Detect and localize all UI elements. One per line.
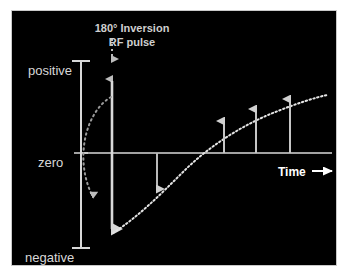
rf-pulse-caption: 180° Inversion RF pulse (72, 21, 192, 49)
axis-label-positive: positive (28, 63, 72, 78)
inversion-recovery-figure: 180° Inversion RF pulse positive zero ne… (0, 0, 348, 276)
diagram-canvas (12, 11, 336, 265)
inversion-flip-arc (83, 97, 111, 195)
plot-area: 180° Inversion RF pulse positive zero ne… (11, 10, 337, 266)
axis-label-time: Time (278, 165, 306, 179)
axis-label-zero: zero (38, 155, 63, 170)
rf-caption-line-1: 180° Inversion (72, 21, 192, 35)
magnetization-axis (72, 60, 90, 249)
t1-recovery-curve (113, 95, 327, 233)
rf-caption-line-2: RF pulse (72, 35, 192, 49)
axis-label-negative: negative (25, 250, 74, 265)
